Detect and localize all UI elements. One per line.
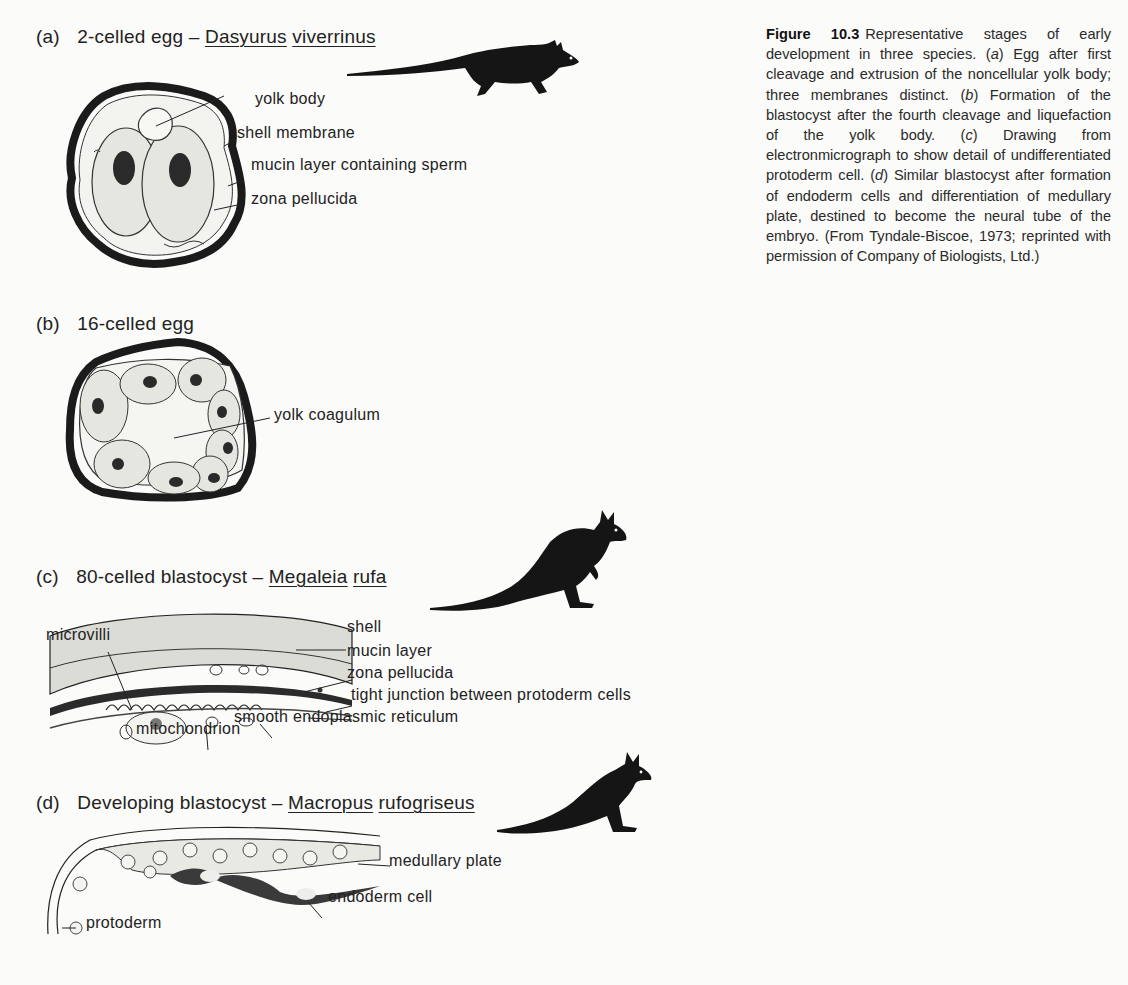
label-smooth-endoplasmic-reticulum: smooth endoplasmic reticulum — [234, 708, 459, 726]
label-tight-junction: tight junction between protoderm cells — [351, 686, 631, 704]
caption-ref-d: d — [875, 167, 883, 183]
caption-ref-c: c — [965, 127, 972, 143]
label-protoderm: protoderm — [86, 914, 162, 932]
stage-text: 16-celled egg — [77, 313, 194, 334]
species-name: rufa — [353, 566, 387, 587]
label-mitochondrion: mitochondrion — [136, 720, 240, 738]
quoll-silhouette-icon — [345, 40, 585, 102]
label-mucin-layer: mucin layer — [347, 642, 432, 660]
genus-name: Dasyurus — [205, 26, 287, 47]
panel-b-heading: (b) 16-celled egg — [36, 313, 194, 335]
label-zona-pellucida: zona pellucida — [347, 664, 454, 682]
label-medullary-plate: medullary plate — [389, 852, 502, 870]
species-name: rufogriseus — [379, 792, 475, 813]
stage-text: Developing blastocyst – — [77, 792, 282, 813]
label-endoderm-cell: endoderm cell — [328, 888, 432, 906]
label-yolk-coagulum: yolk coagulum — [274, 406, 380, 424]
label-shell-membrane: shell membrane — [237, 124, 355, 142]
caption-ref-a: a — [991, 46, 999, 62]
label-shell: shell — [347, 618, 381, 636]
panel-letter: (b) — [36, 313, 60, 334]
panel-c-heading: (c) 80-celled blastocyst – Megaleia rufa — [36, 566, 387, 588]
genus-name: Megaleia — [269, 566, 348, 587]
label-mucin-layer-containing-sperm: mucin layer containing sperm — [251, 156, 468, 174]
label-microvilli: microvilli — [46, 626, 110, 644]
panel-letter: (c) — [36, 566, 59, 587]
label-yolk-body: yolk body — [255, 90, 325, 108]
panel-letter: (a) — [36, 26, 60, 47]
figure-number: Figure 10.3 — [766, 26, 859, 42]
label-zona-pellucida: zona pellucida — [251, 190, 358, 208]
panel-d-heading: (d) Developing blastocyst – Macropus ruf… — [36, 792, 475, 814]
figure-caption: Figure 10.3Representative stages of earl… — [766, 24, 1111, 266]
sixteen-celled-egg-drawing — [66, 340, 260, 500]
genus-name: Macropus — [288, 792, 373, 813]
two-celled-egg-drawing — [64, 82, 254, 268]
stage-text: 2-celled egg – — [77, 26, 199, 47]
kangaroo-silhouette-icon — [430, 508, 630, 612]
panel-a-heading: (a) 2-celled egg – Dasyurus viverrinus — [36, 26, 376, 48]
wallaby-silhouette-icon — [497, 750, 667, 836]
panel-letter: (d) — [36, 792, 60, 813]
stage-text: 80-celled blastocyst – — [76, 566, 263, 587]
